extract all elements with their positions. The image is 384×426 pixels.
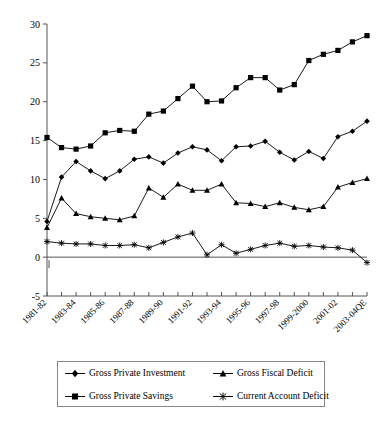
legend-item-gross-fiscal-deficit: Gross Fiscal Deficit [206, 368, 326, 379]
legend-label: Current Account Deficit [237, 392, 329, 402]
legend-label: Gross Fiscal Deficit [237, 369, 313, 379]
svg-text:20: 20 [30, 96, 40, 107]
legend-label: Gross Private Savings [89, 392, 173, 402]
zero-line [47, 257, 367, 268]
svg-text:25: 25 [30, 57, 40, 68]
svg-text:1995-96: 1995-96 [224, 297, 253, 326]
svg-text:1997-98: 1997-98 [253, 297, 282, 326]
svg-text:15: 15 [30, 135, 40, 146]
legend-marker-diamond-icon [64, 368, 86, 379]
legend-item-gross-private-investment: Gross Private Investment [58, 368, 206, 379]
legend-marker-triangle-icon [212, 368, 234, 379]
x-axis [47, 292, 367, 296]
data-series-group [44, 33, 370, 266]
chart-legend: Gross Private Investment Gross Fiscal De… [57, 361, 325, 407]
svg-text:1985-86: 1985-86 [78, 297, 107, 326]
legend-marker-star-icon [212, 391, 234, 402]
svg-text:5: 5 [35, 213, 40, 224]
svg-text:30: 30 [30, 19, 40, 30]
svg-text:1999-2000: 1999-2000 [276, 297, 311, 332]
legend-marker-square-icon [64, 391, 86, 402]
svg-text:1989-90: 1989-90 [136, 297, 165, 326]
line-chart: -5051015202530 1981-821983-841985-861987… [0, 0, 384, 426]
x-axis-tick-labels: 1981-821983-841985-861987-881989-901991-… [20, 297, 369, 334]
y-axis: -5051015202530 [30, 19, 47, 302]
svg-text:0: 0 [35, 252, 40, 263]
svg-text:1987-88: 1987-88 [107, 297, 136, 326]
svg-text:1981-82: 1981-82 [20, 297, 48, 325]
svg-text:2001-02: 2001-02 [311, 297, 339, 325]
svg-text:1991-92: 1991-92 [166, 297, 194, 325]
svg-text:1993-94: 1993-94 [195, 297, 224, 326]
svg-text:1983-84: 1983-84 [49, 297, 78, 326]
legend-item-current-account-deficit: Current Account Deficit [206, 391, 326, 402]
legend-label: Gross Private Investment [89, 369, 185, 379]
svg-text:10: 10 [30, 174, 40, 185]
legend-item-gross-private-savings: Gross Private Savings [58, 391, 206, 402]
